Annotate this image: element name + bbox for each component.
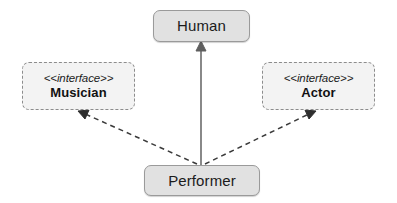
realization-performer-to-musician — [78, 110, 197, 164]
class-node-human-label: Human — [177, 18, 226, 34]
interface-node-actor-label: Actor — [301, 86, 335, 100]
realization-line — [205, 113, 311, 164]
generalization-performer-to-human — [196, 41, 206, 165]
interface-node-musician-stereotype: <<interface>> — [44, 72, 114, 84]
open-arrow-arrowhead — [78, 110, 89, 119]
interface-node-musician[interactable]: <<interface>> Musician — [22, 62, 135, 110]
uml-class-diagram: Human <<interface>> Musician <<interface… — [0, 0, 397, 203]
closed-triangle-arrowhead — [196, 41, 206, 51]
realization-line — [83, 113, 197, 164]
interface-node-musician-label: Musician — [50, 86, 106, 100]
realization-performer-to-actor — [205, 110, 316, 164]
open-arrow-arrowhead — [305, 110, 316, 119]
class-node-performer-label: Performer — [168, 173, 236, 189]
class-node-performer[interactable]: Performer — [144, 165, 260, 196]
class-node-human[interactable]: Human — [153, 10, 250, 42]
interface-node-actor-stereotype: <<interface>> — [284, 72, 354, 84]
interface-node-actor[interactable]: <<interface>> Actor — [262, 62, 375, 110]
